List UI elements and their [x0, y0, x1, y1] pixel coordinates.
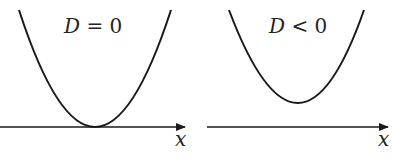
panel-d-less-than-zero: D < 0 x — [207, 10, 389, 151]
x-axis-label: x — [175, 127, 186, 151]
panel-label: D < 0 — [268, 14, 327, 38]
panel-d-equals-zero: D = 0 x — [0, 10, 186, 151]
x-axis-label: x — [378, 127, 389, 151]
discriminant-diagram: D = 0 x D < 0 x — [0, 0, 393, 161]
panel-label: D = 0 — [63, 14, 122, 38]
